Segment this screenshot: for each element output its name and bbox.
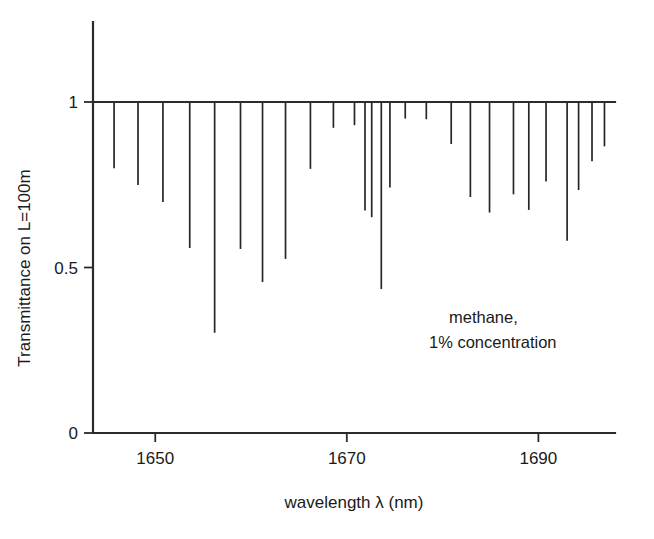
y-tick-label: 1	[69, 93, 78, 112]
y-tick-label: 0	[69, 424, 78, 443]
x-tick-label: 1650	[136, 449, 174, 468]
chart-figure: 00.51 165016701690 Transmittance on L=10…	[0, 0, 654, 539]
x-axis-title: wavelength λ (nm)	[284, 493, 424, 512]
annotation-concentration: 1% concentration	[429, 333, 557, 351]
y-axis-title: Transmittance on L=100m	[15, 169, 34, 366]
transmittance-spectrum-chart: 00.51 165016701690 Transmittance on L=10…	[0, 0, 654, 539]
annotation-methane: methane,	[449, 308, 518, 326]
x-tick-label: 1690	[519, 449, 557, 468]
y-tick-label: 0.5	[54, 259, 78, 278]
x-tick-label: 1670	[328, 449, 366, 468]
